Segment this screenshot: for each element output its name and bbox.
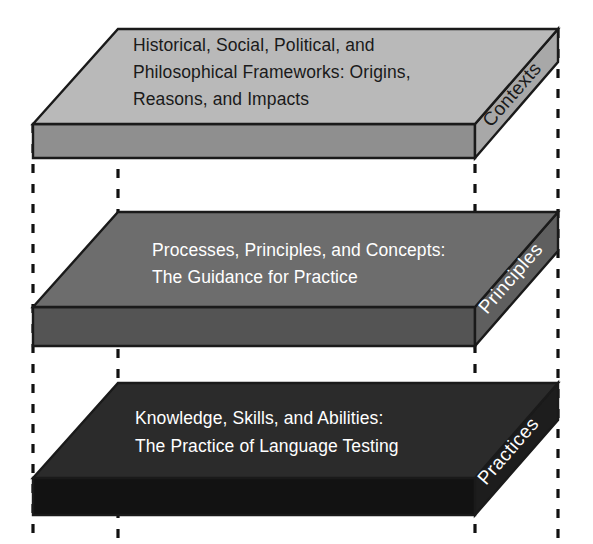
layer-principles-line-1: Processes, Principles, and Concepts: <box>152 240 445 260</box>
layer-contexts-line-3: Reasons, and Impacts <box>133 89 309 109</box>
layer-practices-front-face <box>33 478 475 515</box>
layer-principles-front-face <box>33 307 475 346</box>
layer-contexts-front-face <box>33 124 475 158</box>
layer-contexts-line-2: Philosophical Frameworks: Origins, <box>133 62 411 82</box>
layer-practices-top-face <box>33 383 558 478</box>
layered-framework-diagram: Historical, Social, Political, and Philo… <box>0 0 593 544</box>
layer-practices-line-2: The Practice of Language Testing <box>135 436 399 456</box>
diagram-canvas: Historical, Social, Political, and Philo… <box>0 0 593 544</box>
layer-contexts-line-1: Historical, Social, Political, and <box>133 35 375 55</box>
layer-practices[interactable]: Knowledge, Skills, and Abilities: The Pr… <box>33 383 558 515</box>
layer-contexts[interactable]: Historical, Social, Political, and Philo… <box>33 29 558 158</box>
layer-principles[interactable]: Processes, Principles, and Concepts: The… <box>33 212 558 346</box>
layer-practices-line-1: Knowledge, Skills, and Abilities: <box>135 408 383 428</box>
layer-principles-line-2: The Guidance for Practice <box>152 267 358 287</box>
